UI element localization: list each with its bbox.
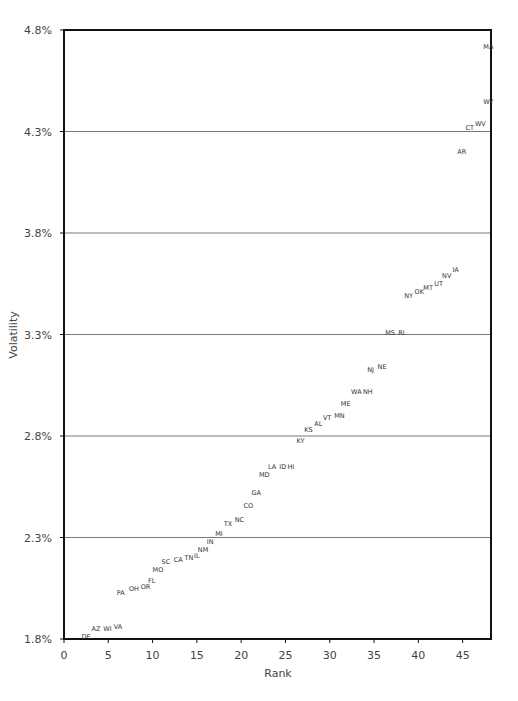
point-label-mt: MT <box>423 284 433 292</box>
point-label-wv: WV <box>475 120 486 128</box>
scatter-chart: 1.8%2.3%2.8%3.3%3.8%4.3%4.8% 05101520253… <box>0 0 518 701</box>
point-label-wa: WA <box>351 388 362 396</box>
point-label-ut: UT <box>434 280 443 288</box>
point-label-de: DE <box>82 633 91 641</box>
point-label-mn: MN <box>334 412 345 420</box>
point-label-nm: NM <box>198 546 208 554</box>
point-label-ny: NY <box>404 292 413 300</box>
point-label-id: ID <box>279 463 286 471</box>
x-tick-label: 45 <box>456 649 470 662</box>
point-label-ri: RI <box>398 329 405 337</box>
point-label-ct: CT <box>465 124 474 132</box>
point-label-ne: NE <box>378 363 387 371</box>
point-label-ms: MS <box>385 329 395 337</box>
point-label-tx: TX <box>223 520 233 528</box>
point-label-ma: MA <box>483 43 494 51</box>
point-label-vt: VT <box>323 414 331 422</box>
y-tick-label: 3.8% <box>24 227 52 240</box>
point-label-tn: TN <box>183 554 193 562</box>
y-tick-label: 4.8% <box>24 24 52 37</box>
y-tick-label: 4.3% <box>24 126 52 139</box>
point-label-ar: AR <box>457 148 466 156</box>
point-label-mi: MI <box>215 530 223 538</box>
point-label-nv: NV <box>442 272 452 280</box>
x-tick-label: 30 <box>323 649 337 662</box>
y-tick-label: 1.8% <box>24 633 52 646</box>
x-axis-ticks: 051015202530354045 <box>61 639 470 662</box>
point-label-nc: NC <box>235 516 245 524</box>
y-tick-label: 2.3% <box>24 532 52 545</box>
point-label-pa: PA <box>117 589 126 597</box>
y-axis-ticks: 1.8%2.3%2.8%3.3%3.8%4.3%4.8% <box>24 24 64 646</box>
point-label-ca: CA <box>174 556 184 564</box>
x-tick-label: 35 <box>367 649 381 662</box>
point-label-wy: WY <box>483 98 493 106</box>
point-label-md: MD <box>259 471 270 479</box>
y-tick-label: 2.8% <box>24 430 52 443</box>
horizontal-gridlines <box>64 30 491 639</box>
point-label-nh: NH <box>363 388 373 396</box>
y-tick-label: 3.3% <box>24 329 52 342</box>
x-tick-label: 40 <box>411 649 425 662</box>
point-label-fl: FL <box>148 577 156 585</box>
x-tick-label: 5 <box>105 649 112 662</box>
data-point-labels: DEAZWIVAPAOHORFLMOSCCATNILNMINMITXNCCOGA… <box>82 43 494 642</box>
x-tick-label: 25 <box>278 649 292 662</box>
point-label-co: CO <box>243 502 253 510</box>
point-label-la: LA <box>268 463 277 471</box>
point-label-nj: NJ <box>367 366 374 374</box>
x-tick-label: 15 <box>190 649 204 662</box>
point-label-ga: GA <box>251 489 261 497</box>
point-label-az: AZ <box>91 625 100 633</box>
y-axis-title: Volatility <box>7 311 20 359</box>
point-label-al: AL <box>314 420 322 428</box>
point-label-ia: IA <box>452 266 459 274</box>
point-label-sc: SC <box>162 558 171 566</box>
point-label-ky: KY <box>297 437 305 445</box>
point-label-oh: OH <box>129 585 139 593</box>
x-tick-label: 20 <box>234 649 248 662</box>
point-label-in: IN <box>207 538 214 546</box>
point-label-ks: KS <box>304 426 312 434</box>
x-axis-title: Rank <box>264 667 292 680</box>
point-label-hi: HI <box>287 463 294 471</box>
point-label-me: ME <box>341 400 351 408</box>
point-label-va: VA <box>114 623 123 631</box>
x-tick-label: 10 <box>146 649 160 662</box>
point-label-mo: MO <box>153 566 164 574</box>
x-tick-label: 0 <box>61 649 68 662</box>
point-label-wi: WI <box>103 625 111 633</box>
